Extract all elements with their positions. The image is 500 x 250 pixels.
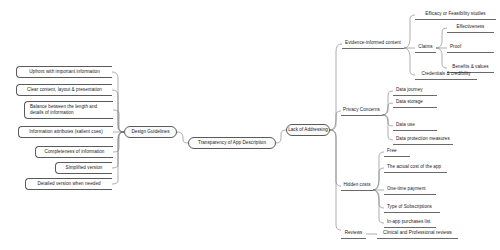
node-label: In-app purchases list [387, 219, 430, 225]
list-item[interactable]: Balance between the length and details o… [24, 101, 113, 119]
node-label: Lack of Addressing [288, 127, 328, 133]
list-item[interactable]: Credentials & credibility [415, 69, 477, 80]
list-item[interactable]: The actual cost of the app [384, 162, 447, 173]
node-label: Detailed version when needed [37, 181, 100, 187]
node-label: Claims [418, 44, 432, 50]
node-label: Type of Subscriptions [387, 204, 432, 210]
list-item[interactable]: Data journey [393, 85, 437, 96]
node-label: Evidence-informed content [345, 40, 401, 46]
node-label: Reviews [345, 230, 363, 236]
list-item[interactable]: Detailed version when needed [25, 178, 112, 190]
list-item[interactable]: Simplified version [55, 162, 112, 174]
list-item[interactable]: Type of Subscriptions [384, 202, 440, 213]
branch-reviews[interactable]: Reviews [341, 228, 366, 239]
node-label: Proof [450, 44, 461, 50]
node-label: Free [387, 148, 397, 154]
node-label: Privacy Concerns [343, 107, 380, 113]
branch-privacy-concerns[interactable]: Privacy Concerns [341, 105, 382, 116]
node-label: Data journey [396, 87, 423, 93]
node-label: Transparency of App Description [198, 140, 266, 146]
node-label: Clear content, layout & presentation [27, 87, 102, 93]
list-item[interactable]: In-app purchases list [384, 217, 436, 228]
node-label: Completeness of information [45, 149, 105, 155]
list-item[interactable]: Completeness of information [35, 146, 113, 158]
node-label: Clinical and Professional reviews [383, 230, 452, 236]
node-label: Hidden costs [343, 182, 370, 188]
node-label: Data use [396, 122, 415, 128]
list-item[interactable]: Effectiveness [447, 22, 494, 33]
list-item[interactable]: Information attributes (salient cues) [18, 126, 113, 138]
node-label: Data protection measures [396, 136, 450, 142]
hub-lack-of-addressing[interactable]: Lack of Addressing [286, 124, 330, 136]
list-item[interactable]: Free [384, 146, 410, 157]
list-item[interactable]: Data storage [393, 97, 437, 108]
branch-hidden-costs[interactable]: Hidden costs [341, 180, 373, 191]
node-label: Effectiveness [457, 24, 485, 30]
node-label: Data storage [396, 99, 423, 105]
mindmap-canvas: Upfront with important information Clear… [0, 0, 500, 250]
node-label: Upfront with important information [29, 69, 100, 75]
list-item[interactable]: One-time payment [384, 184, 436, 195]
list-item[interactable]: Data use [393, 120, 437, 131]
node-label: Simplified version [66, 165, 103, 171]
list-item[interactable]: Upfront with important information [16, 66, 112, 78]
branch-claims[interactable]: Claims [415, 42, 436, 53]
list-item[interactable]: Efficacy or Feasibility studies [415, 9, 496, 20]
list-item[interactable]: Clinical and Professional reviews [377, 228, 458, 239]
node-label: Design Guidelines [131, 129, 169, 135]
list-item[interactable]: Proof [447, 42, 494, 53]
list-item[interactable]: Clear content, layout & presentation [16, 84, 112, 96]
hub-design-guidelines[interactable]: Design Guidelines [124, 126, 177, 138]
center-node[interactable]: Transparency of App Description [188, 137, 276, 149]
node-label: Efficacy or Feasibility studies [425, 11, 485, 17]
node-label: Credentials & credibility [421, 71, 470, 77]
node-label: Information attributes (salient cues) [29, 129, 103, 135]
node-label: Balance between the length and details o… [30, 104, 110, 116]
node-label: The actual cost of the app [387, 164, 441, 170]
list-item[interactable]: Data protection measures [393, 134, 453, 145]
node-label: One-time payment [387, 186, 426, 192]
branch-evidence-informed-content[interactable]: Evidence-informed content [342, 38, 404, 49]
